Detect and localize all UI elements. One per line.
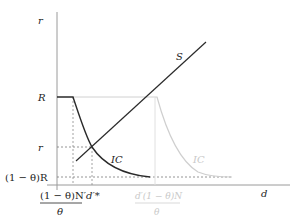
y-tick-r: r	[38, 142, 44, 153]
ic-dark-curve	[57, 97, 150, 177]
y-tick-R: R	[37, 92, 46, 103]
ic-light-label: IC	[192, 154, 205, 165]
x-tick-left-fraction-denominator: θ	[57, 206, 63, 217]
x-axis-label: d	[261, 188, 267, 199]
x-tick-right-fraction-denominator: θ	[154, 207, 160, 217]
y-tick-one-minus-theta-R: (1 − θ)R	[5, 172, 48, 183]
y-axis-label: r	[38, 15, 44, 26]
supply-label: S	[176, 51, 183, 62]
ic-light-curve	[155, 97, 232, 177]
x-tick-d-star: d′*	[86, 190, 100, 201]
diagram-canvas: r d R r (1 − θ)R S IC IC (1 − θ)N′ θ d′*…	[0, 0, 300, 224]
x-tick-left-fraction-numerator: (1 − θ)N′	[40, 190, 87, 201]
ic-dark-label: IC	[110, 154, 123, 165]
x-tick-right-fraction-numerator: d′(1 − θ)N	[135, 191, 183, 201]
supply-line	[76, 42, 206, 161]
